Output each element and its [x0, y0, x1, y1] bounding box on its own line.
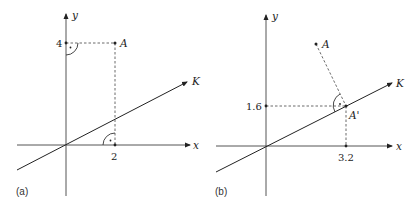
point-a-label: A [119, 37, 128, 49]
panel-a: A K x y 4 2 (a) [16, 9, 201, 197]
projection-diagram: A K x y 4 2 (a) A A' K x y 1.6 3.2 (b) [0, 0, 420, 211]
line-k-label: K [395, 77, 405, 89]
x-tick-label: 3.2 [338, 152, 354, 163]
y-axis-label: y [271, 10, 279, 22]
point-a-prime-label: A' [348, 109, 359, 121]
line-k [17, 82, 187, 170]
right-angle-dot [110, 140, 112, 142]
point-a-prime [345, 105, 348, 108]
x-axis-label: x [396, 140, 402, 152]
y-tick-label: 4 [56, 38, 62, 49]
point-a [114, 42, 117, 45]
right-angle-arc-x [103, 133, 115, 145]
x-tick-label: 2 [111, 151, 117, 162]
tick-x [345, 145, 348, 148]
line-k [216, 83, 392, 172]
y-axis-label: y [71, 9, 79, 21]
tick-y [265, 105, 268, 108]
x-axis-label: x [193, 139, 199, 151]
tick-y [65, 42, 68, 45]
point-a [315, 43, 318, 46]
panel-b: A A' K x y 1.6 3.2 (b) [215, 10, 405, 197]
panel-caption: (b) [215, 186, 227, 197]
right-angle-arc-y [66, 43, 78, 55]
point-a-label: A [321, 38, 330, 50]
panel-caption: (a) [16, 186, 28, 197]
dashed-perpendicular [316, 44, 346, 106]
tick-x [114, 144, 117, 147]
line-k-label: K [191, 75, 201, 87]
right-angle-dot [70, 47, 72, 49]
y-tick-label: 1.6 [246, 101, 262, 112]
right-angle-dot [339, 103, 341, 105]
